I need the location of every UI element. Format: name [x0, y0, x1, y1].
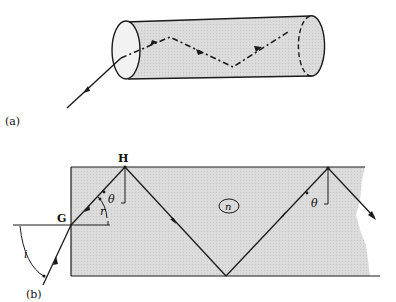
- panel-b-label: (b): [26, 288, 42, 301]
- medium-index-label: n: [225, 201, 231, 212]
- angle-i-label: i: [24, 248, 28, 261]
- point-g-label: G: [57, 212, 66, 225]
- panel-a-cylinder: [67, 16, 325, 108]
- panel-a-label: (a): [5, 115, 20, 128]
- panel-b-slab: [13, 165, 380, 285]
- point-h-label: H: [118, 152, 128, 165]
- fiber-optics-diagram: (a): [0, 0, 396, 302]
- angle-r-label: r: [100, 205, 106, 218]
- angle-theta-label: θ: [108, 193, 115, 206]
- angle-theta-right-label: θ: [311, 197, 318, 210]
